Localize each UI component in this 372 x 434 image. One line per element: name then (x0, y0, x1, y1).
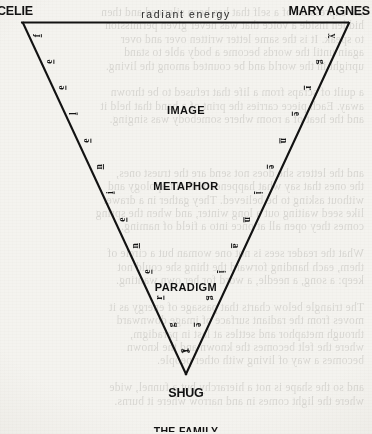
edge-letter: n (95, 164, 105, 169)
inner-label-metaphor: METAPHOR (0, 180, 372, 192)
edge-letter: g (168, 322, 178, 327)
edge-letter: n (243, 217, 253, 222)
edge-letter: r (303, 86, 313, 90)
corner-label-shug: SHUG (0, 386, 372, 400)
corner-label-celie: CELIE (0, 4, 33, 18)
edge-letter: e (291, 112, 301, 116)
edge-letter: n (279, 138, 289, 143)
edge-letter: e (267, 165, 277, 169)
triangle-diagram (0, 0, 372, 434)
edge-letter: g (316, 59, 326, 64)
corner-label-mary-agnes: MARY AGNES (288, 4, 370, 18)
edge-letter: e (119, 217, 129, 221)
triangle-right-edge (186, 23, 349, 374)
edge-letter: n (131, 243, 141, 248)
edge-letter: g (206, 296, 216, 301)
edge-letter: i (106, 192, 116, 195)
edge-letter: e (45, 59, 55, 63)
edge-letter: e (193, 322, 203, 326)
inner-label-image: IMAGE (0, 104, 372, 116)
edge-letter: e (58, 86, 68, 90)
inner-label-paradigm: PARADIGM (0, 281, 372, 293)
edge-letter: e (143, 270, 153, 274)
triangle-left-edge (23, 23, 186, 374)
edge-letter: f (181, 349, 191, 352)
edge-letter: a (230, 243, 240, 248)
edge-letter: r (155, 296, 165, 300)
edge-letter: i (217, 271, 227, 274)
edge-letter: i (254, 192, 264, 195)
edge-letter: y (328, 33, 338, 38)
edge-letter: l (69, 113, 79, 116)
edge-letter: f (33, 34, 43, 37)
edge-letter: e (82, 138, 92, 142)
figure-canvas: the expression of a self that has been s… (0, 0, 372, 434)
